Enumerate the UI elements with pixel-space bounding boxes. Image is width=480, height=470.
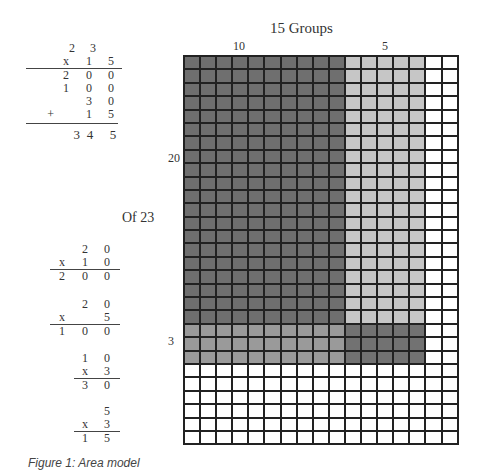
grid-cell-tens-by-tens [200,96,216,109]
grid-cell-tens-by-ones [248,351,264,364]
grid-cell-tens-by-tens [200,270,216,283]
digit: 1 [74,432,96,445]
grid-cell-tens-by-ones [297,351,313,364]
grid-cell-tens-by-ones [281,337,297,350]
grid-cell-tens-by-tens [216,297,232,310]
grid-cell-ones-by-tens [409,177,425,190]
grid-cell-empty [232,377,248,390]
grid-cell-empty [329,404,345,417]
grid-cell-empty [329,377,345,390]
grid-cell-tens-by-tens [329,56,345,69]
grid-cell-empty [232,418,248,431]
grid-cell-empty [425,56,441,69]
grid-cell-tens-by-tens [248,69,264,82]
grid-cell-tens-by-tens [184,297,200,310]
grid-cell-empty [248,431,264,444]
grid-cell-tens-by-tens [232,177,248,190]
grid-cell-tens-by-tens [329,96,345,109]
grid-cell-empty [442,217,458,230]
grid-cell-tens-by-tens [200,257,216,270]
grid-cell-tens-by-tens [248,257,264,270]
grid-cell-empty [361,431,377,444]
grid-cell-empty [264,431,280,444]
grid-cell-tens-by-tens [329,136,345,149]
grid-cell-tens-by-tens [281,310,297,323]
grid-cell-empty [442,310,458,323]
partial-product-5x3: 5 x3 15 [74,405,120,445]
grid-cell-ones-by-tens [409,257,425,270]
grid-cell-tens-by-ones [232,324,248,337]
grid-cell-tens-by-tens [329,310,345,323]
digit: 0 [74,270,96,283]
grid-cell-empty [442,351,458,364]
grid-cell-tens-by-tens [264,150,280,163]
grid-cell-tens-by-tens [313,297,329,310]
digit: 5 [96,311,118,324]
grid-cell-empty [281,364,297,377]
grid-cell-ones-by-tens [393,110,409,123]
grid-cell-tens-by-tens [264,217,280,230]
grid-cell-tens-by-tens [200,150,216,163]
grid-cell-ones-by-tens [361,190,377,203]
grid-cell-empty [442,96,458,109]
grid-cell-tens-by-tens [248,190,264,203]
grid-cell-ones-by-tens [345,257,361,270]
product-digit: 5 [100,128,126,144]
grid-cell-empty [425,190,441,203]
grid-cell-ones-by-tens [345,203,361,216]
grid-cell-tens-by-ones [232,351,248,364]
grid-cell-empty [345,418,361,431]
grid-cell-ones-by-ones [377,324,393,337]
grid-cell-empty [248,377,264,390]
grid-cell-tens-by-tens [184,69,200,82]
main-multiplication: 23 x15 200 100 30 +15 345 [30,42,126,144]
grid-cell-ones-by-tens [345,123,361,136]
digit: 0 [96,256,118,269]
grid-cell-tens-by-tens [264,203,280,216]
row-label-tens: 20 [168,151,180,166]
grid-cell-ones-by-tens [409,203,425,216]
grid-cell-empty [442,190,458,203]
grid-cell-tens-by-tens [184,190,200,203]
grid-cell-empty [200,431,216,444]
grid-cell-ones-by-ones [393,337,409,350]
grid-cell-tens-by-tens [329,230,345,243]
grid-cell-ones-by-tens [377,136,393,149]
grid-cell-tens-by-tens [248,203,264,216]
grid-cell-empty [425,243,441,256]
grid-cell-ones-by-tens [377,190,393,203]
grid-cell-tens-by-tens [248,217,264,230]
grid-cell-tens-by-tens [216,243,232,256]
times-sign: x [50,256,74,269]
digit: 1 [54,82,78,95]
grid-cell-tens-by-tens [264,56,280,69]
grid-cell-ones-by-tens [377,230,393,243]
grid-cell-ones-by-tens [345,270,361,283]
grid-cell-tens-by-tens [297,310,313,323]
grid-cell-tens-by-ones [329,324,345,337]
grid-cell-ones-by-ones [345,324,361,337]
grid-cell-empty [216,391,232,404]
grid-cell-empty [345,377,361,390]
grid-cell-ones-by-ones [361,351,377,364]
grid-cell-ones-by-tens [345,96,361,109]
digit: 1 [78,55,100,68]
grid-cell-tens-by-tens [297,96,313,109]
digit: 5 [100,108,122,121]
grid-cell-ones-by-tens [361,230,377,243]
grid-cell-ones-by-tens [377,297,393,310]
grid-cell-empty [377,418,393,431]
grid-cell-empty [425,391,441,404]
grid-cell-tens-by-tens [313,83,329,96]
grid-cell-empty [232,391,248,404]
grid-cell-empty [442,284,458,297]
grid-cell-tens-by-tens [232,270,248,283]
grid-cell-ones-by-tens [409,96,425,109]
grid-cell-tens-by-tens [184,230,200,243]
grid-cell-tens-by-tens [184,203,200,216]
digit: 5 [100,55,122,68]
grid-cell-tens-by-tens [200,297,216,310]
grid-cell-tens-by-tens [232,243,248,256]
grid-cell-empty [442,83,458,96]
grid-cell-tens-by-tens [248,284,264,297]
